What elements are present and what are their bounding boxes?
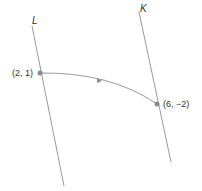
line-k-label: K (140, 3, 148, 14)
line-l-label: L (32, 15, 38, 26)
point-end (155, 102, 160, 107)
point-start-label: (2, 1) (12, 68, 33, 78)
diagram-canvas: L K (2, 1) (6, −2) (0, 0, 202, 191)
point-start (38, 71, 43, 76)
point-end-label: (6, −2) (163, 99, 189, 109)
line-k (139, 12, 171, 162)
line-l (32, 26, 64, 186)
transformation-curve (40, 73, 157, 104)
